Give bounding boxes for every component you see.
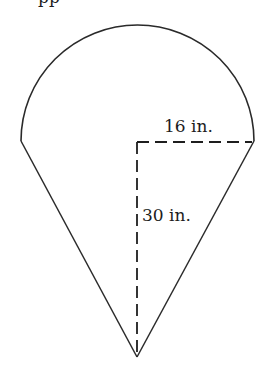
semicircle-arc <box>21 25 254 141</box>
radius-label: 16 in. <box>164 118 213 135</box>
cone-diagram <box>0 0 266 368</box>
triangle-left-side <box>21 141 137 357</box>
triangle-right-side <box>137 141 254 357</box>
cone-figure: pp 16 in. 30 in. <box>0 0 266 368</box>
cropped-heading-text: pp <box>38 0 60 6</box>
height-label: 30 in. <box>142 207 191 224</box>
